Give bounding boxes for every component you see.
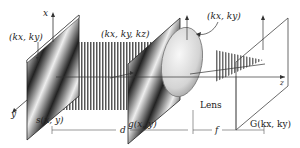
distance-f-label: f (215, 126, 218, 135)
distance-d-label: d (120, 126, 126, 135)
plane-wave-label: (kx, ky, kz) (101, 30, 150, 39)
lens-wavevector-label: (kx, ky) (207, 12, 241, 21)
x-axis-label: x (43, 9, 48, 18)
input-wavevector-label: (kx, ky) (9, 33, 43, 42)
z-axis-label: z (280, 80, 284, 87)
source-plane-label: s(x, y) (36, 116, 64, 125)
fourier-plane (236, 18, 288, 130)
object-plane-label: g(x, y) (128, 120, 157, 129)
y-axis-label: y (11, 110, 16, 119)
lens-label: Lens (200, 101, 222, 110)
diagram-canvas: x (kx, ky) (kx, ky, kz) (kx, ky) y z s(x… (0, 0, 300, 148)
fourier-plane-label: G(kx, ky) (250, 120, 291, 129)
